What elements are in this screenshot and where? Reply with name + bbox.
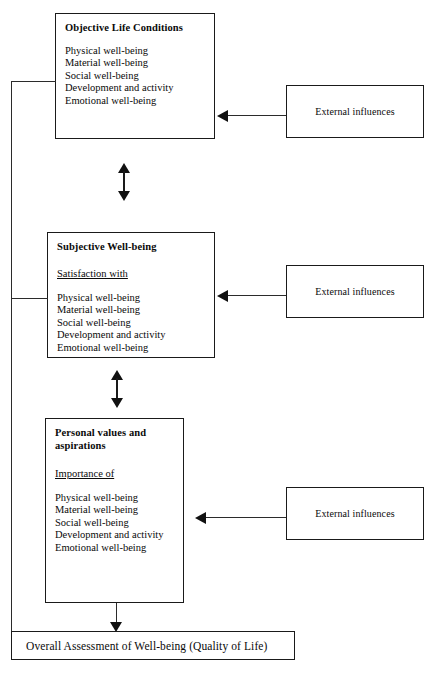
double-arrow-2-shaft xyxy=(116,378,118,400)
list-item: Emotional well-being xyxy=(65,95,214,107)
list-item: Material well-being xyxy=(65,57,214,69)
list-item: Development and activity xyxy=(57,329,214,341)
arrow-external-1-shaft xyxy=(228,115,286,116)
arrow-external-2-head-icon xyxy=(217,290,228,302)
arrow-external-2-shaft xyxy=(228,295,286,296)
box-title-subjective-well-being: Subjective Well-being xyxy=(57,240,214,253)
list-item: Social well-being xyxy=(55,517,183,529)
external-influences-label: External influences xyxy=(315,106,394,117)
feedback-line-top xyxy=(11,81,56,82)
list-item: Emotional well-being xyxy=(55,542,183,554)
double-arrow-1-shaft xyxy=(123,171,125,193)
box-subjective-well-being: Subjective Well-being Satisfaction with … xyxy=(47,232,215,358)
list-item: Material well-being xyxy=(57,304,214,316)
external-influences-label: External influences xyxy=(315,286,394,297)
list-item: Emotional well-being xyxy=(57,342,214,354)
feedback-line-vertical xyxy=(11,81,12,632)
box-external-influences-2: External influences xyxy=(286,265,424,318)
arrow-external-3-shaft xyxy=(206,517,286,518)
box-objective-life-conditions: Objective Life Conditions Physical well-… xyxy=(55,13,215,139)
list-item: Social well-being xyxy=(57,317,214,329)
list-item: Development and activity xyxy=(55,529,183,541)
list-item: Social well-being xyxy=(65,70,214,82)
overall-assessment-label: Overall Assessment of Well-being (Qualit… xyxy=(12,640,267,652)
external-influences-label: External influences xyxy=(315,508,394,519)
box-external-influences-3: External influences xyxy=(286,487,424,540)
double-arrow-2-down-head-icon xyxy=(111,398,123,408)
box-external-influences-1: External influences xyxy=(286,85,424,138)
list-item: Development and activity xyxy=(65,82,214,94)
box-personal-values-and-aspirations: Personal values and aspirations Importan… xyxy=(45,418,184,603)
arrow-external-1-head-icon xyxy=(217,110,228,122)
list-item: Physical well-being xyxy=(55,492,183,504)
list-item: Physical well-being xyxy=(57,292,214,304)
box-overall-assessment: Overall Assessment of Well-being (Qualit… xyxy=(11,631,295,660)
list-item: Physical well-being xyxy=(65,45,214,57)
double-arrow-1-down-head-icon xyxy=(118,191,130,201)
list-item: Material well-being xyxy=(55,504,183,516)
arrow-external-3-head-icon xyxy=(195,512,206,524)
box-subtitle-satisfaction-with: Satisfaction with xyxy=(57,267,128,280)
box-subtitle-importance-of: Importance of xyxy=(55,467,114,480)
box-title-objective-life-conditions: Objective Life Conditions xyxy=(65,21,214,34)
diagram-canvas: Objective Life Conditions Physical well-… xyxy=(0,0,442,680)
feedback-line-middle xyxy=(11,298,48,299)
box-title-personal-values-and-aspirations: Personal values and aspirations xyxy=(55,426,165,452)
